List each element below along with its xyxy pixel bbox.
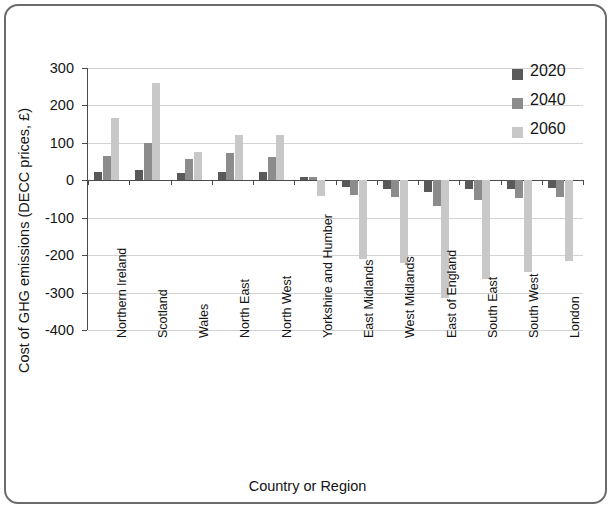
- x-category-label: East of England: [445, 250, 459, 338]
- y-tick-mark: [82, 143, 87, 144]
- x-category-label: Wales: [197, 304, 211, 338]
- bar-2060: [400, 180, 408, 263]
- y-tick-label: -400: [30, 323, 74, 338]
- bar-2040: [309, 177, 317, 180]
- gridline: [88, 105, 583, 106]
- bar-2060: [194, 152, 202, 180]
- bar-2020: [218, 172, 226, 181]
- bar-2040: [103, 156, 111, 181]
- y-tick-label: 0: [30, 173, 74, 188]
- x-category-label: South East: [486, 277, 500, 338]
- bar-2040: [474, 180, 482, 199]
- y-tick-mark: [82, 218, 87, 219]
- y-tick-mark: [82, 255, 87, 256]
- bar-2060: [565, 180, 573, 260]
- y-tick-label: 200: [30, 98, 74, 113]
- gridline: [88, 255, 583, 256]
- y-tick-mark: [82, 330, 87, 331]
- legend-swatch-icon: [512, 98, 523, 109]
- bar-2060: [482, 180, 490, 279]
- y-tick-mark: [82, 180, 87, 181]
- x-tick-mark: [253, 180, 254, 185]
- bar-chart: Cost of GHG emissions (DECC prices, £) 3…: [0, 0, 615, 510]
- x-category-label: South West: [527, 274, 541, 338]
- bar-2020: [300, 177, 308, 180]
- bar-2060: [152, 83, 160, 180]
- bar-2020: [342, 180, 350, 187]
- x-tick-mark: [212, 180, 213, 185]
- gridline: [88, 143, 583, 144]
- gridline: [88, 218, 583, 219]
- y-tick-label: -200: [30, 248, 74, 263]
- x-tick-mark: [129, 180, 130, 185]
- x-category-label: East Midlands: [362, 259, 376, 338]
- bar-2040: [515, 180, 523, 198]
- bar-2040: [350, 180, 358, 194]
- y-tick-label: 300: [30, 61, 74, 76]
- bar-2020: [548, 180, 556, 187]
- legend-swatch-icon: [512, 69, 523, 80]
- bar-2020: [383, 180, 391, 188]
- x-category-label: Scotland: [156, 289, 170, 338]
- bar-2020: [135, 170, 143, 180]
- bar-2020: [424, 180, 432, 191]
- legend-label: 2020: [530, 62, 566, 80]
- x-tick-mark: [171, 180, 172, 185]
- bar-2020: [507, 180, 515, 188]
- x-tick-mark: [542, 180, 543, 185]
- legend-label: 2040: [530, 91, 566, 109]
- x-category-label: North West: [280, 276, 294, 338]
- bar-2040: [556, 180, 564, 196]
- bar-2060: [317, 180, 325, 196]
- x-tick-mark: [377, 180, 378, 185]
- y-tick-mark: [82, 105, 87, 106]
- y-tick-label: -100: [30, 211, 74, 226]
- x-tick-mark: [294, 180, 295, 185]
- x-tick-mark: [459, 180, 460, 185]
- bar-2040: [185, 159, 193, 180]
- x-category-label: West Midlands: [403, 256, 417, 338]
- bar-2060: [359, 180, 367, 259]
- x-tick-mark: [336, 180, 337, 185]
- x-tick-mark: [583, 180, 584, 185]
- x-axis-title: Country or Region: [0, 478, 615, 494]
- bar-2040: [433, 180, 441, 205]
- y-tick-mark: [82, 293, 87, 294]
- y-axis-line: [87, 68, 88, 330]
- bar-2020: [177, 173, 185, 180]
- legend-swatch-icon: [512, 127, 523, 138]
- y-tick-label: 100: [30, 136, 74, 151]
- x-category-label: Yorkshire and Humber: [321, 214, 335, 338]
- bar-2060: [111, 118, 119, 180]
- x-tick-mark: [88, 180, 89, 185]
- bar-2040: [226, 153, 234, 180]
- legend-label: 2060: [530, 120, 566, 138]
- x-tick-mark: [501, 180, 502, 185]
- bar-2040: [268, 157, 276, 180]
- x-tick-mark: [418, 180, 419, 185]
- bar-2020: [465, 180, 473, 189]
- x-category-label: London: [568, 296, 582, 338]
- y-tick-label: -300: [30, 286, 74, 301]
- bar-2020: [259, 172, 267, 181]
- bar-2060: [235, 135, 243, 180]
- bar-2060: [276, 135, 284, 181]
- x-category-label: North East: [238, 279, 252, 338]
- bar-2020: [94, 172, 102, 180]
- x-category-label: Northern Ireland: [115, 248, 129, 338]
- bar-2040: [391, 180, 399, 197]
- bar-2040: [144, 143, 152, 180]
- y-tick-mark: [82, 68, 87, 69]
- bar-2060: [524, 180, 532, 272]
- gridline: [88, 68, 583, 69]
